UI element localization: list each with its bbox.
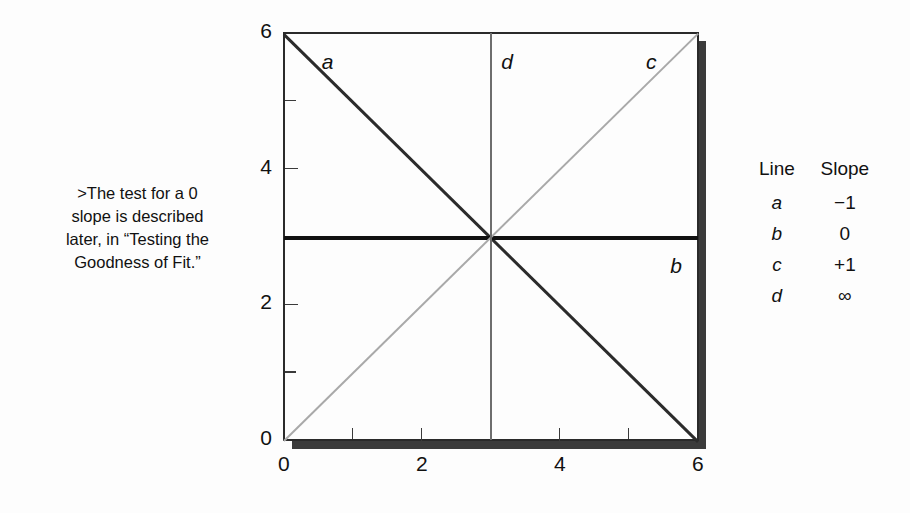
legend-row: c+1 [748,249,884,280]
legend: Line Slope a−1b0c+1d∞ [748,158,888,311]
legend-line-slope: −1 [806,187,884,218]
line-label-c: c [646,50,657,74]
legend-line-name: c [748,249,806,280]
legend-line-name: a [748,187,806,218]
legend-header-row: Line Slope [748,158,884,187]
legend-header-line: Line [748,158,806,187]
x-tick-label: 4 [530,452,590,476]
legend-row: d∞ [748,280,884,311]
y-tick [285,304,298,305]
legend-line-name: b [748,218,806,249]
x-tick-label: 0 [254,452,314,476]
y-tick [285,371,296,372]
y-tick [285,168,298,169]
x-tick-label: 6 [668,452,728,476]
legend-body: a−1b0c+1d∞ [748,187,884,311]
side-note: >The test for a 0 slope is described lat… [30,182,245,274]
x-tick [421,428,422,441]
legend-row: b0 [748,218,884,249]
y-tick-label: 2 [232,290,272,314]
x-tick [559,428,560,441]
y-tick [285,100,296,101]
y-tick-label: 6 [232,19,272,43]
line-label-a: a [322,50,334,74]
legend-line-name: d [748,280,806,311]
y-tick-label: 4 [232,155,272,179]
legend-line-slope: 0 [806,218,884,249]
line-label-b: b [670,254,682,278]
y-tick-label: 0 [232,426,272,450]
line-label-d: d [501,50,513,74]
data-line-d [490,33,492,440]
legend-line-slope: ∞ [806,280,884,311]
legend-row: a−1 [748,187,884,218]
figure-root: >The test for a 0 slope is described lat… [0,0,910,513]
x-tick-label: 2 [392,452,452,476]
legend-line-slope: +1 [806,249,884,280]
x-tick [628,428,629,439]
x-tick [352,428,353,439]
legend-header-slope: Slope [806,158,884,187]
legend-table: Line Slope a−1b0c+1d∞ [748,158,884,311]
